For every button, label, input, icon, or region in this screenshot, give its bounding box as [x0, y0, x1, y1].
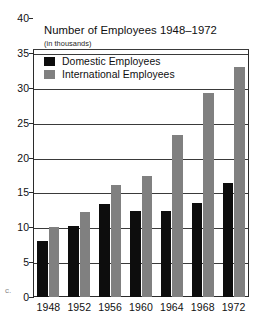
x-axis-tick-label: 1952 — [64, 302, 95, 313]
legend: Domestic Employees International Employe… — [44, 55, 204, 81]
y-axis-tick-label: 40 — [4, 13, 29, 23]
bar-international — [203, 93, 214, 297]
bar-international — [234, 67, 245, 297]
x-axis-labels: 1948195219561960196419681972 — [33, 302, 249, 318]
y-axis-tick-label: 20 — [4, 153, 29, 163]
y-axis-tick-label: 15 — [4, 187, 29, 197]
legend-label-international: International Employees — [62, 69, 175, 80]
x-axis-tick-label: 1972 — [218, 302, 249, 313]
y-axis-tick-label: 10 — [4, 222, 29, 232]
x-axis-tick-label: 1968 — [187, 302, 218, 313]
chart-subtitle: (in thousands) — [44, 39, 249, 48]
bar-domestic — [223, 183, 234, 297]
bar-domestic — [130, 211, 141, 297]
bar-international — [172, 135, 183, 297]
legend-item-domestic: Domestic Employees — [44, 55, 204, 67]
chart-title: Number of Employees 1948–1972 — [44, 24, 249, 36]
bar-international — [142, 176, 153, 297]
y-axis-tick-label: 35 — [4, 48, 29, 58]
bar-group — [223, 18, 245, 297]
bar-domestic — [161, 211, 172, 297]
x-axis-tick-label: 1956 — [95, 302, 126, 313]
x-axis-tick-label: 1948 — [33, 302, 64, 313]
legend-swatch-international-icon — [44, 70, 55, 79]
y-axis-tick-label: 5 — [4, 257, 29, 267]
employees-bar-chart: 0510152025303540 Number of Employees 194… — [0, 0, 266, 327]
y-axis-tick-label: 30 — [4, 83, 29, 93]
bar-international — [80, 212, 91, 297]
legend-label-domestic: Domestic Employees — [62, 56, 161, 67]
legend-swatch-domestic-icon — [44, 57, 55, 66]
x-axis-tick-label: 1964 — [156, 302, 187, 313]
bar-domestic — [68, 226, 79, 297]
bar-domestic — [99, 204, 110, 297]
scan-artifact: c. — [5, 287, 11, 295]
bar-international — [111, 185, 122, 297]
bar-domestic — [192, 203, 203, 297]
bar-domestic — [37, 241, 48, 297]
y-axis-tick-label: 25 — [4, 118, 29, 128]
bar-international — [49, 227, 60, 297]
legend-item-international: International Employees — [44, 68, 204, 80]
x-axis-tick-label: 1960 — [126, 302, 157, 313]
title-box: Number of Employees 1948–1972 (in thousa… — [33, 18, 249, 50]
y-axis-tick-mark — [29, 297, 34, 298]
